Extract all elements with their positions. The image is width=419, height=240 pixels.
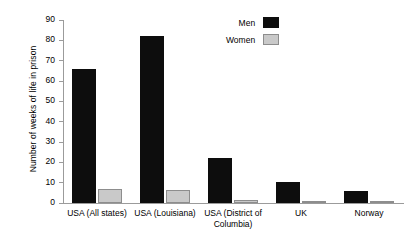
bar-group — [140, 20, 190, 203]
y-axis-title: Number of weeks of life in prison — [28, 14, 38, 204]
bar-men — [72, 69, 96, 203]
y-tick-label: 60 — [46, 75, 55, 86]
bar-women — [166, 190, 190, 203]
x-axis-line — [63, 203, 404, 204]
legend-item-men: Men — [226, 14, 279, 31]
y-tick-label: 70 — [46, 55, 55, 66]
bar-men — [344, 191, 368, 203]
legend-label-women: Women — [226, 35, 255, 45]
y-tick-label: 20 — [46, 156, 55, 167]
x-tick-label: UK — [267, 208, 335, 219]
bar-women — [370, 201, 394, 203]
x-tick-label: USA (All states) — [63, 208, 131, 219]
x-tick-label: USA (District ofColumbia) — [199, 208, 267, 230]
bar-group — [276, 20, 326, 203]
bar-group — [72, 20, 122, 203]
y-tick-label: 80 — [46, 34, 55, 45]
legend-label-men: Men — [239, 18, 256, 28]
y-tick-label: 30 — [46, 136, 55, 147]
legend: Men Women — [226, 14, 279, 48]
x-tick-label: USA (Louisiana) — [131, 208, 199, 219]
y-tick-label: 90 — [46, 14, 55, 25]
legend-item-women: Women — [226, 31, 279, 48]
x-tick-label: Norway — [335, 208, 403, 219]
y-tick-label: 40 — [46, 116, 55, 127]
bar-women — [302, 201, 326, 203]
y-tick-label: 50 — [46, 95, 55, 106]
bar-men — [276, 182, 300, 203]
bar-chart: Number of weeks of life in prison 908070… — [0, 0, 419, 240]
bar-men — [140, 36, 164, 203]
bar-group — [344, 20, 394, 203]
bar-men — [208, 158, 232, 203]
y-tick-label: 10 — [46, 177, 55, 188]
y-tick-label: 0 — [50, 197, 55, 208]
bar-women — [98, 189, 122, 203]
legend-swatch-men — [263, 17, 279, 28]
bar-women — [234, 200, 258, 203]
legend-swatch-women — [263, 34, 279, 45]
